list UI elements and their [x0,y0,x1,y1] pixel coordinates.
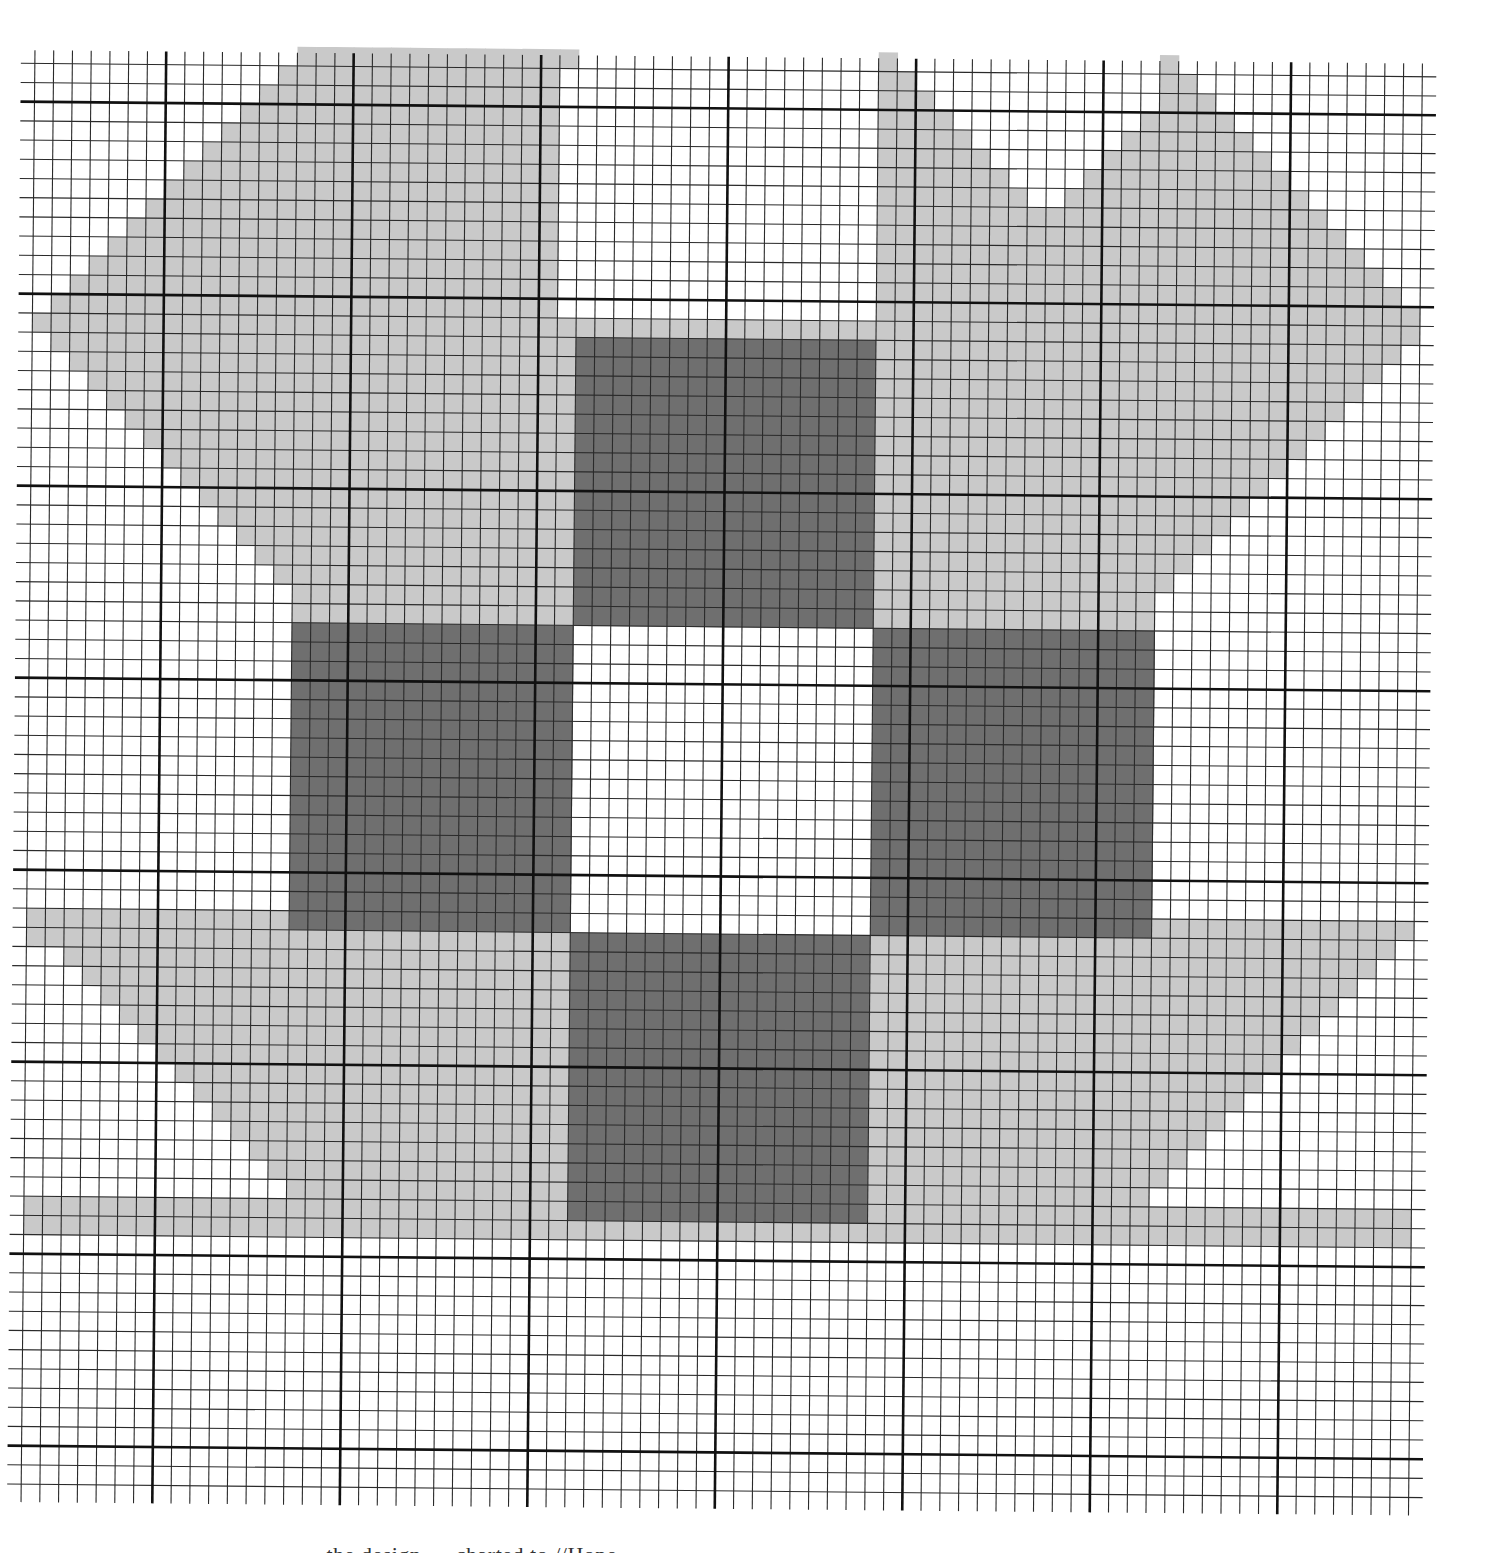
light-stitch-cell [870,993,890,1013]
light-stitch-cell [555,568,575,588]
light-stitch-cell [364,950,384,970]
light-stitch-cell [500,413,520,433]
light-stitch-cell [200,468,220,488]
light-stitch-cell [1138,324,1158,344]
light-stitch-cell [945,975,965,995]
light-stitch-cell [1120,266,1140,286]
light-stitch-cell [1045,265,1065,285]
dark-stitch-cell [1040,860,1060,880]
dark-stitch-cell [1134,784,1154,804]
light-stitch-cell [950,456,970,476]
light-stitch-cell [312,488,332,508]
light-stitch-cell [370,297,390,317]
light-stitch-cell [203,142,223,162]
light-stitch-cell [463,394,483,414]
light-stitch-cell [1225,1092,1245,1112]
dark-stitch-cell [663,1029,683,1049]
light-stitch-cell [1081,438,1101,458]
light-stitch-cell [1057,1014,1077,1034]
light-stitch-cell [277,181,297,201]
light-stitch-cell [514,951,534,971]
light-stitch-cell [551,932,571,952]
light-stitch-cell [442,567,462,587]
light-stitch-cell [1233,190,1253,210]
dark-stitch-cell [649,530,669,550]
light-stitch-cell [1018,1148,1038,1168]
light-stitch-cell [1117,611,1137,631]
light-stitch-cell [382,969,402,989]
dark-stitch-cell [611,568,631,588]
dark-stitch-cell [792,1204,812,1224]
light-stitch-cell [1074,1149,1094,1169]
light-stitch-cell [363,1065,383,1085]
light-stitch-cell [1057,956,1077,976]
light-stitch-cell [293,546,313,566]
light-stitch-cell [1251,363,1271,383]
dark-stitch-cell [817,570,837,590]
light-stitch-cell [101,986,121,1006]
light-stitch-cell [220,296,240,316]
light-stitch-cell [483,241,503,261]
light-stitch-cell [276,335,296,355]
light-stitch-cell [382,950,402,970]
dark-stitch-cell [1095,918,1115,938]
light-stitch-cell [929,610,949,630]
light-stitch-cell [163,410,183,430]
light-stitch-cell [183,276,203,296]
light-stitch-cell [1376,940,1396,960]
dark-stitch-cell [420,893,440,913]
light-stitch-cell [410,48,430,68]
dark-stitch-cell [663,991,683,1011]
light-stitch-cell [981,1148,1001,1168]
light-stitch-cell [401,931,421,951]
light-stitch-cell [1140,189,1160,209]
light-stitch-cell [557,318,577,338]
dark-stitch-cell [1002,898,1022,918]
light-stitch-cell [445,240,465,260]
dark-stitch-cell [851,935,871,955]
dark-stitch-cell [291,719,311,739]
light-stitch-cell [258,277,278,297]
light-stitch-cell [239,257,259,277]
light-stitch-cell [107,352,127,372]
light-stitch-cell [1131,1130,1151,1150]
light-stitch-cell [1170,919,1190,939]
light-stitch-cell [447,67,467,87]
light-stitch-cell [632,319,652,339]
light-stitch-cell [550,1086,570,1106]
light-stitch-cell [1233,286,1253,306]
dark-stitch-cell [927,898,947,918]
dark-stitch-cell [871,878,891,898]
light-stitch-cell [988,380,1008,400]
dark-stitch-cell [812,1108,832,1128]
light-stitch-cell [372,124,392,144]
light-stitch-cell [1038,1071,1058,1091]
light-stitch-cell [1112,1168,1132,1188]
light-stitch-cell [213,1044,233,1064]
light-stitch-cell [447,106,467,126]
dark-stitch-cell [793,1146,813,1166]
light-stitch-cell [1158,228,1178,248]
dark-stitch-cell [365,835,385,855]
light-stitch-cell [550,1067,570,1087]
minor-grid-line [808,58,822,1510]
light-stitch-cell [425,394,445,414]
light-stitch-cell [444,394,464,414]
light-stitch-cell [108,237,128,257]
dark-stitch-cell [1041,745,1061,765]
dark-stitch-cell [309,738,329,758]
dark-stitch-cell [625,1087,645,1107]
light-stitch-cell [252,910,272,930]
light-stitch-cell [419,1085,439,1105]
dark-stitch-cell [762,493,782,513]
light-stitch-cell [513,1028,533,1048]
dark-stitch-cell [776,973,796,993]
light-stitch-cell [895,264,915,284]
dark-stitch-cell [1039,918,1059,938]
light-stitch-cell [949,514,969,534]
light-stitch-cell [237,507,257,527]
dark-stitch-cell [818,474,838,494]
light-stitch-cell [43,1196,63,1216]
light-stitch-cell [912,437,932,457]
dark-stitch-cell [782,378,802,398]
